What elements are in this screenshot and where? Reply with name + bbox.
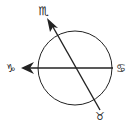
zodiac-axis-diagram: ♏ ♑ ♋ ♉ [0,0,139,126]
arrowhead-up-icon [47,18,58,32]
taurus-label: ♉ [95,110,105,123]
capricorn-label: ♑ [6,62,16,75]
scorpio-label: ♏ [39,4,50,18]
cancer-label: ♋ [116,62,126,75]
